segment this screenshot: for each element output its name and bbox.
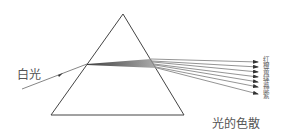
- spectrum-label-violet: 紫: [263, 93, 270, 99]
- ray-blue: [155, 65, 258, 82]
- spectrum-labels: 红 橙 黄 绿 蓝 靛 紫: [262, 57, 270, 99]
- dispersed-rays: [151, 59, 258, 94]
- ray-indigo: [156, 67, 258, 87]
- diagram-caption: 光的色散: [212, 114, 260, 131]
- refracted-fan: [87, 59, 157, 68]
- ray-violet: [157, 68, 258, 94]
- incident-arrow-icon: [58, 73, 63, 77]
- white-light-label: 白光: [17, 65, 41, 82]
